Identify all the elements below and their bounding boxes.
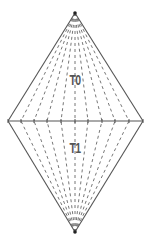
- bottom-fan-dashed-line: [75, 121, 129, 232]
- top-fan-dashed-line: [75, 13, 129, 121]
- top-fan-dashed-line: [21, 13, 75, 121]
- bottom-fan-dashed-lines: [21, 121, 129, 232]
- top-fan-dashed-line: [61, 13, 75, 121]
- double-triangle-diagram: [0, 0, 149, 245]
- top-fan-dashed-line: [75, 13, 102, 121]
- top-vertex-dot: [73, 11, 77, 15]
- bottom-vertex-dot: [73, 230, 77, 234]
- edge-bottom-left: [8, 121, 75, 232]
- top-fan-dashed-line: [34, 13, 75, 121]
- top-fan-dashed-line: [47, 13, 75, 121]
- edge-bottom-right: [75, 121, 143, 232]
- edge-top-left: [8, 13, 75, 121]
- bottom-fan-dashed-line: [47, 121, 75, 232]
- triangle-label-t0: T0: [70, 73, 81, 87]
- top-fan-dashed-lines: [21, 13, 129, 121]
- bottom-fan-dashed-line: [75, 121, 102, 232]
- top-fan-dashed-line: [75, 13, 88, 121]
- triangle-label-t1: T1: [70, 141, 81, 155]
- bottom-fan-dashed-line: [75, 121, 88, 232]
- bottom-fan-dashed-line: [21, 121, 75, 232]
- bottom-fan-dashed-line: [61, 121, 75, 232]
- bottom-fan-dashed-line: [34, 121, 75, 232]
